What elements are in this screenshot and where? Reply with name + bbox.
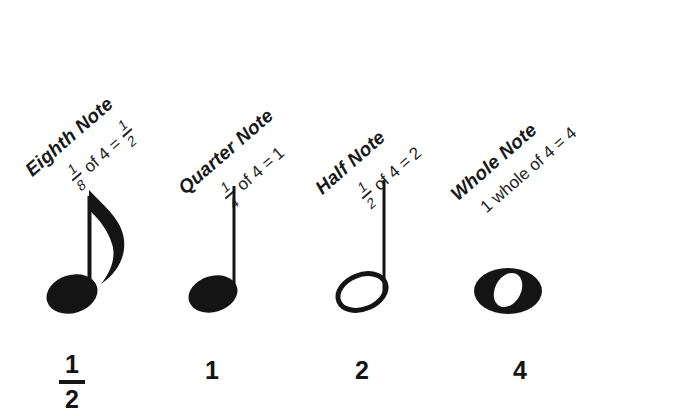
whole-note-glyph	[468, 262, 552, 324]
half-note-glyph	[326, 178, 402, 322]
eighth-note-beats: 1 2	[42, 352, 102, 412]
eighth-note-glyph	[44, 182, 152, 322]
note-values-chart: Eighth Note 1 8 of 4 = 1 2 1	[0, 0, 685, 416]
half-note-beats-value: 2	[355, 356, 369, 384]
half-note-beats: 2	[332, 358, 392, 383]
quarter-note-beats-value: 1	[205, 356, 219, 384]
whole-note-beats: 4	[490, 358, 550, 383]
quarter-note-beats: 1	[182, 358, 242, 383]
whole-note-beats-value: 4	[513, 356, 527, 384]
eighth-note-beats-fraction: 1 2	[59, 352, 85, 412]
whole-note-label-group: Whole Note 1 whole of 4 = 4	[447, 101, 579, 225]
quarter-note-glyph	[186, 182, 256, 322]
eighth-note-formula-middle: of 4 =	[81, 135, 125, 176]
